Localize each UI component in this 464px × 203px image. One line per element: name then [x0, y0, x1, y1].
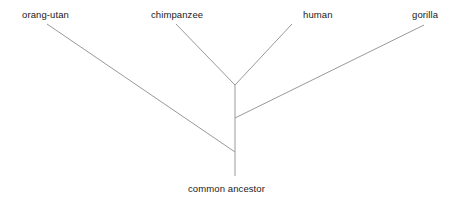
taxon-label-chimpanzee: chimpanzee — [151, 9, 203, 20]
taxon-label-orang-utan: orang-utan — [22, 9, 69, 20]
taxon-label-gorilla: gorilla — [412, 9, 438, 20]
branch-chimpanzee — [176, 24, 235, 85]
root-label-common-ancestor: common ancestor — [188, 183, 265, 194]
branch-gorilla — [235, 25, 424, 118]
tree-branches-svg — [0, 0, 464, 203]
taxon-label-human: human — [303, 9, 333, 20]
branch-orangutan — [47, 24, 235, 152]
branch-human — [235, 24, 292, 85]
phylogenetic-tree-diagram: orang-utan chimpanzee human gorilla comm… — [0, 0, 464, 203]
